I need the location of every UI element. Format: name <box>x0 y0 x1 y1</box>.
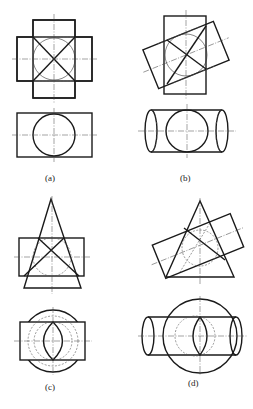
panel-a-top-view <box>12 14 97 104</box>
panel-d-front-view <box>138 296 248 376</box>
panel-c-top-view <box>14 196 90 294</box>
panel-c-label: (c) <box>45 382 55 392</box>
panel-d-top-view <box>145 198 251 284</box>
panel-b-label: (b) <box>180 173 191 183</box>
panel-c-front-view <box>14 307 92 375</box>
panel-a-front-view <box>12 108 97 162</box>
panel-b-top-view <box>135 10 236 100</box>
panel-a-label: (a) <box>45 173 55 183</box>
technical-drawing <box>0 0 253 409</box>
panel-b-front-view <box>138 104 236 158</box>
panel-d-label: (d) <box>188 378 199 388</box>
